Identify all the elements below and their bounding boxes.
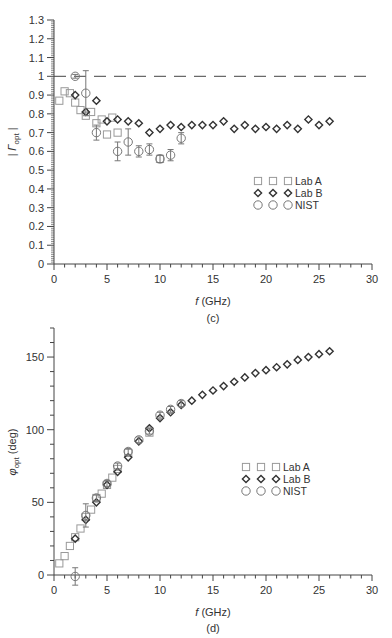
legend-label: NIST — [295, 199, 320, 211]
y-tick-label: 150 — [26, 351, 44, 363]
square-legend-icon — [269, 177, 276, 184]
data-point — [241, 122, 248, 129]
data-point — [114, 129, 121, 136]
legend-label: Lab A — [295, 175, 322, 187]
legend: Lab ALab BNIST — [254, 175, 323, 211]
diamond-legend-icon — [272, 475, 279, 482]
data-point — [220, 118, 227, 125]
circle-legend-icon — [272, 487, 280, 495]
data-point — [156, 125, 163, 132]
data-point — [252, 125, 259, 132]
data-point — [284, 122, 291, 129]
diamond-legend-icon — [257, 475, 264, 482]
circle-legend-icon — [257, 487, 265, 495]
x-tick-label: 5 — [104, 273, 110, 285]
data-point — [273, 125, 280, 132]
x-tick-label: 15 — [207, 273, 219, 285]
y-axis-label-end: (deg) — [6, 428, 18, 457]
data-point — [199, 391, 206, 398]
y-tick-label: 0.9 — [29, 89, 44, 101]
x-axis-label-unit: (GHz) — [198, 606, 230, 618]
y-axis-label-symbol: φ — [6, 468, 18, 475]
diamond-legend-icon — [254, 189, 261, 196]
x-tick-label: 30 — [366, 273, 378, 285]
diamond-legend-icon — [284, 189, 291, 196]
diamond-legend-icon — [269, 189, 276, 196]
x-tick-label: 10 — [154, 273, 166, 285]
chart-panel-d: 051015202530050100150Lab ALab BNISTf (GH… — [6, 328, 378, 634]
y-tick-label: 1.3 — [29, 14, 44, 26]
data-point — [209, 387, 216, 394]
y-axis-label-subscript: opt — [12, 456, 21, 468]
x-tick-label: 20 — [260, 584, 272, 596]
data-point — [284, 361, 291, 368]
data-point — [273, 364, 280, 371]
data-point — [241, 374, 248, 381]
x-tick-label: 0 — [51, 273, 57, 285]
data-point — [178, 123, 185, 130]
x-tick-label: 30 — [366, 584, 378, 596]
x-axis-label-unit: (GHz) — [198, 295, 230, 307]
panel-caption: (c) — [207, 312, 220, 324]
legend-label: Lab B — [283, 473, 310, 485]
series-lab-a — [56, 88, 164, 163]
data-point — [209, 122, 216, 129]
series-lab-b — [72, 348, 334, 543]
circle-legend-icon — [284, 201, 292, 209]
y-axis-label: φopt (deg) — [6, 428, 21, 475]
data-point — [56, 560, 63, 567]
data-point — [72, 91, 79, 98]
series-lab-a — [56, 429, 153, 567]
x-tick-label: 0 — [51, 584, 57, 596]
data-point — [66, 542, 73, 549]
data-point — [199, 122, 206, 129]
y-tick-label: 0 — [38, 569, 44, 581]
chart-panel-c: 05101520253000.10.20.30.40.50.60.70.80.9… — [6, 14, 378, 324]
data-point — [252, 369, 259, 376]
data-point — [93, 97, 100, 104]
x-axis-label: f (GHz) — [195, 606, 230, 618]
data-point — [72, 99, 79, 106]
data-point — [188, 122, 195, 129]
legend-label: NIST — [283, 485, 308, 497]
x-tick-label: 25 — [313, 584, 325, 596]
square-legend-icon — [272, 463, 279, 470]
y-tick-label: 0.8 — [29, 108, 44, 120]
y-axis-label-end: | — [6, 127, 18, 133]
y-axis-label: | Γopt | — [6, 127, 21, 156]
series-nist — [71, 399, 185, 585]
y-tick-label: 0.6 — [29, 145, 44, 157]
data-point — [61, 553, 68, 560]
x-tick-label: 15 — [207, 584, 219, 596]
data-point — [231, 378, 238, 385]
data-point — [61, 88, 68, 95]
data-point — [188, 397, 195, 404]
data-point — [77, 525, 84, 532]
y-tick-label: 0.5 — [29, 164, 44, 176]
legend: Lab ALab BNIST — [242, 461, 311, 497]
y-tick-label: 1.1 — [29, 52, 44, 64]
x-tick-label: 5 — [104, 584, 110, 596]
data-point — [294, 125, 301, 132]
x-tick-label: 20 — [260, 273, 272, 285]
data-point — [103, 131, 110, 138]
x-tick-label: 25 — [313, 273, 325, 285]
data-point — [220, 383, 227, 390]
data-point — [231, 125, 238, 132]
data-point — [315, 351, 322, 358]
circle-legend-icon — [254, 201, 262, 209]
legend-label: Lab A — [283, 461, 310, 473]
square-legend-icon — [284, 177, 291, 184]
x-tick-label: 10 — [154, 584, 166, 596]
y-tick-label: 0.3 — [29, 202, 44, 214]
data-point — [135, 120, 142, 127]
data-point — [326, 348, 333, 355]
y-tick-label: 0 — [38, 258, 44, 270]
square-legend-icon — [254, 177, 261, 184]
data-point — [305, 353, 312, 360]
y-axis-label-symbol: | Γ — [6, 144, 18, 157]
panel-caption: (d) — [206, 622, 219, 634]
data-point — [114, 116, 121, 123]
y-tick-label: 0.4 — [29, 183, 44, 195]
data-point — [305, 116, 312, 123]
